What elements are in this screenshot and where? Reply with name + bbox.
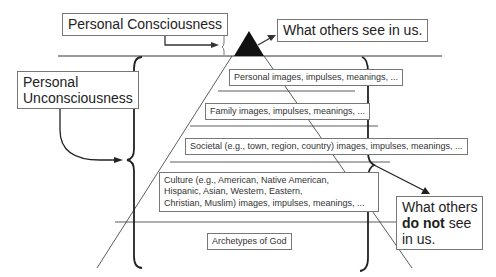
personal-unconsciousness-line1: Personal (23, 74, 133, 90)
not-see-rest: see (449, 215, 472, 231)
personal-consciousness-label: Personal Consciousness (62, 13, 228, 36)
what-others-see-label: What others see in us. (277, 19, 428, 42)
personal-unconsciousness-label: Personal Unconsciousness (17, 71, 139, 109)
culture-line2: Hispanic, Asian, Western, Eastern, (164, 186, 374, 197)
layer-family: Family images, impulses, meanings, ... (205, 103, 370, 120)
culture-line3: Christian, Muslim) images, impulses, mea… (164, 198, 374, 209)
layer-personal: Personal images, impulses, meanings, ... (229, 69, 403, 86)
what-others-do-not-see-label: What others do not see in us. (396, 196, 483, 250)
not-see-line1: What others (402, 199, 477, 215)
personal-unconsciousness-line2: Unconsciousness (23, 90, 133, 106)
not-see-line3: in us. (402, 231, 477, 247)
not-see-line2: do not see (402, 215, 477, 231)
not-see-bold: do not (402, 215, 445, 231)
layer-culture: Culture (e.g., American, Native American… (159, 172, 379, 212)
layer-archetypes-of-god: Archetypes of God (207, 233, 292, 250)
culture-line1: Culture (e.g., American, Native American… (164, 175, 374, 186)
layer-societal: Societal (e.g., town, region, country) i… (185, 138, 468, 155)
